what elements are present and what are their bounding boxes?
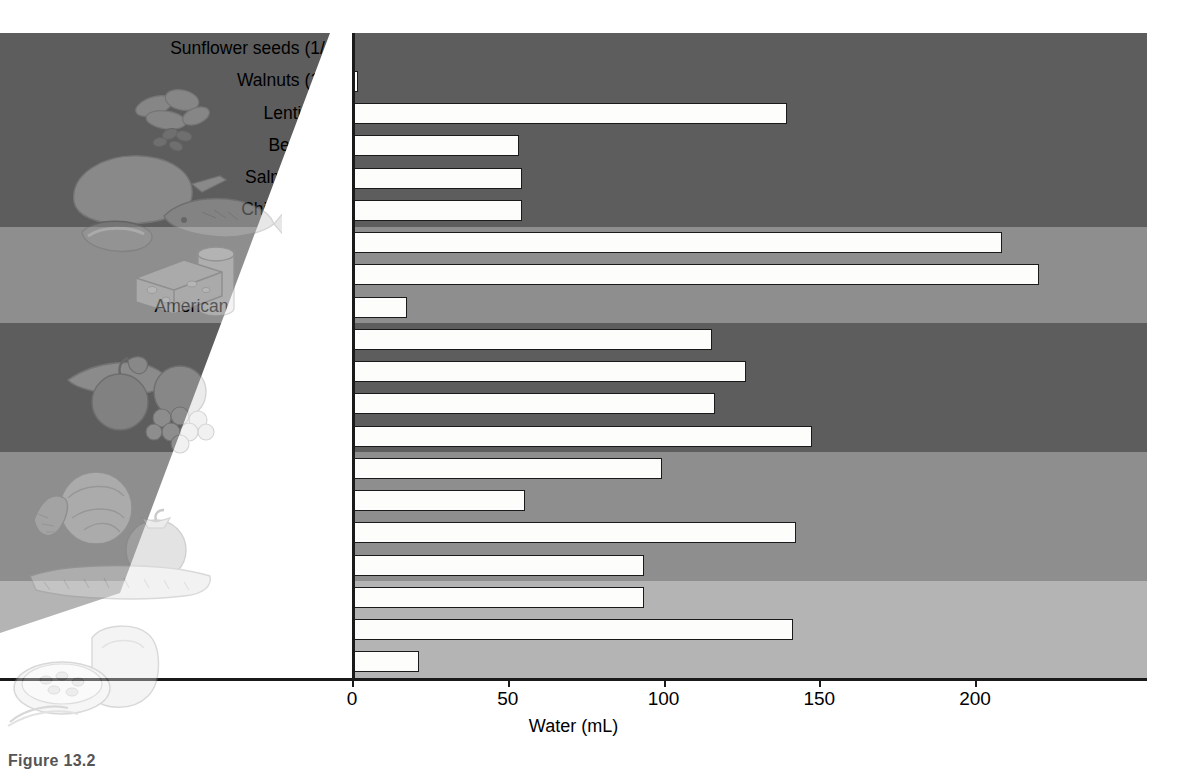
x-tick-label: 100: [648, 688, 680, 710]
bar-label: White bread (2 sl): [216, 653, 354, 671]
bar: [354, 329, 712, 350]
figure-container: Sunflower seeds (1/4 c)Walnuts (1/4 c)Le…: [0, 0, 1177, 770]
x-tick-label: 50: [497, 688, 518, 710]
bar: [354, 361, 746, 382]
x-tick-label: 150: [803, 688, 835, 710]
bar: [354, 232, 1002, 253]
bar-label: Kiwi (2 med): [257, 363, 354, 381]
y-axis-line: [352, 33, 355, 678]
x-tick: [664, 678, 666, 687]
bar: [354, 200, 522, 221]
bar: [354, 555, 644, 576]
figure-caption: Figure 13.2: [8, 752, 96, 770]
bar: [354, 168, 522, 189]
bar: [354, 619, 793, 640]
x-tick: [819, 678, 821, 687]
x-tick: [975, 678, 977, 687]
bar: [354, 490, 525, 511]
bar: [354, 587, 644, 608]
bar: [354, 522, 796, 543]
fruits-illustration: [62, 340, 262, 455]
bar-label: 1% milk (1 c): [253, 266, 354, 284]
bar: [354, 71, 358, 92]
bar: [354, 103, 787, 124]
dairy-cheese-milk-illustration: [122, 238, 262, 328]
bar-label: White rice, cooked (1 c): [170, 621, 354, 639]
x-tick: [508, 678, 510, 687]
bar-label: Sunflower seeds (1/4 c): [170, 40, 354, 58]
bar-label: Broccoli (1 c): [252, 524, 354, 542]
bar: [354, 264, 1039, 285]
x-tick-label: 0: [347, 688, 358, 710]
grains-bread-cereal-illustration: [6, 612, 186, 732]
bar: [354, 135, 519, 156]
x-tick: [352, 678, 354, 687]
bar: [354, 651, 419, 672]
bar: [354, 458, 662, 479]
bar-label: Green beans (1 c): [213, 459, 354, 477]
x-tick-label: 200: [959, 688, 991, 710]
bar: [354, 297, 407, 318]
bar-label: Walnuts (1/4 c): [237, 72, 354, 90]
bar: [354, 426, 812, 447]
bar-label: Lentils (1 c): [264, 105, 354, 123]
vegetables-illustration: [24, 458, 234, 608]
bar: [354, 393, 715, 414]
